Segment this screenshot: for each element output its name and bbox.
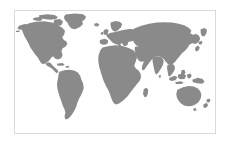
map-frame: Greenland Iceland North America Caribbea… bbox=[14, 10, 216, 134]
world-map-widget: Greenland Iceland North America Caribbea… bbox=[0, 0, 229, 144]
world-map-svg[interactable]: Greenland Iceland North America Caribbea… bbox=[15, 11, 215, 133]
region-ireland[interactable] bbox=[101, 32, 104, 35]
region-sri-lanka[interactable]: Sri Lanka bbox=[159, 75, 161, 78]
